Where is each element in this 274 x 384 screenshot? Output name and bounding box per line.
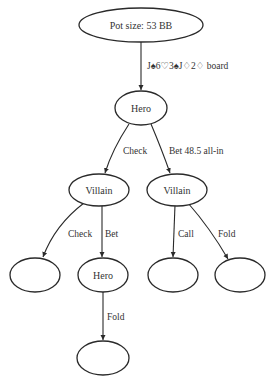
edge-label-villain-bet: Bet <box>105 229 119 239</box>
edge-label-board: J♠6♡3♠J♢2♢ board <box>147 61 229 71</box>
edge-label-hero-check: Check <box>123 146 148 156</box>
node-villain-after-check-label: Villain <box>85 185 112 196</box>
edge-label-hero-fold: Fold <box>107 312 125 322</box>
game-tree-diagram: J♠6♡3♠J♢2♢ board Check Bet 48.5 all-in C… <box>0 0 274 384</box>
node-hero-facing-bet: Hero <box>78 258 128 292</box>
edge-label-hero-bet: Bet 48.5 all-in <box>169 146 224 156</box>
node-leaf-fold <box>215 258 265 292</box>
node-hero: Hero <box>115 91 167 125</box>
node-root-label: Pot size: 53 BB <box>110 20 173 31</box>
edge-hero-bet <box>151 124 170 173</box>
node-villain-after-bet-label: Villain <box>163 185 190 196</box>
node-leaf-hero-fold <box>77 341 129 375</box>
edge-label-villain-check: Check <box>68 229 93 239</box>
edge-label-villain-fold: Fold <box>218 229 236 239</box>
node-villain-after-check: Villain <box>69 174 129 206</box>
node-hero-label: Hero <box>131 103 151 114</box>
edge-villain-call <box>173 205 175 257</box>
node-root: Pot size: 53 BB <box>79 8 203 42</box>
node-hero-facing-bet-label: Hero <box>93 270 113 281</box>
edge-label-villain-call: Call <box>178 229 194 239</box>
node-villain-after-bet: Villain <box>147 174 207 206</box>
node-leaf-check-check <box>10 258 60 292</box>
node-leaf-call <box>148 258 198 292</box>
